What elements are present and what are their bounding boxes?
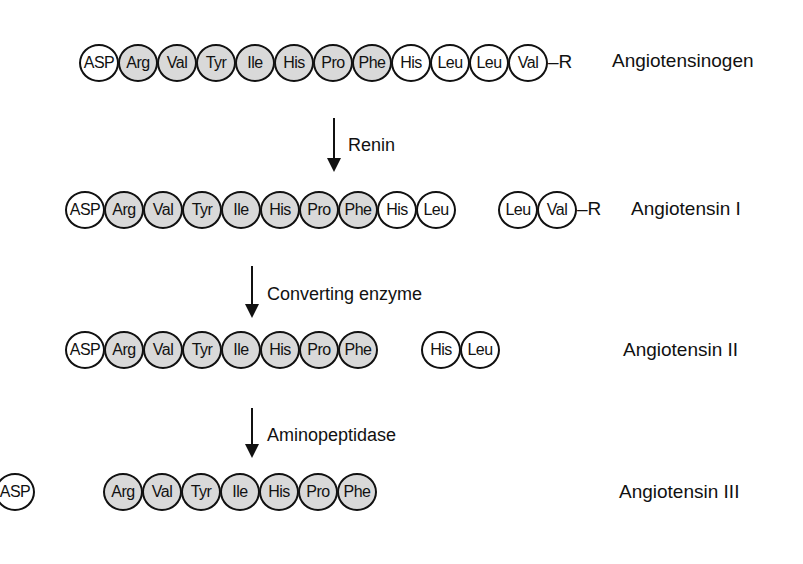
residue-tyr: Tyr xyxy=(182,331,222,369)
residue-tyr: Tyr xyxy=(182,191,222,229)
residue-ile: Ile xyxy=(220,473,260,511)
down-arrow-icon xyxy=(251,266,253,316)
residue-leu: Leu xyxy=(498,191,538,229)
r-group-tail: –R xyxy=(577,198,601,220)
enzyme-label-renin: Renin xyxy=(348,135,395,156)
residue-pro: Pro xyxy=(298,473,338,511)
row-label-angiotensin-3: Angiotensin III xyxy=(619,481,739,503)
residue-val: Val xyxy=(143,331,183,369)
residue-arg: Arg xyxy=(118,44,158,82)
residue-phe: Phe xyxy=(352,44,392,82)
residue-tyr: Tyr xyxy=(196,44,236,82)
residue-leu: Leu xyxy=(416,191,456,229)
residue-leu: Leu xyxy=(430,44,470,82)
residue-his: His xyxy=(274,44,314,82)
residue-arg: Arg xyxy=(104,191,144,229)
r-group-tail: –R xyxy=(548,51,572,73)
residue-phe: Phe xyxy=(338,331,378,369)
residue-val: Val xyxy=(537,191,577,229)
residue-asp: ASP xyxy=(0,473,35,511)
residue-arg: Arg xyxy=(104,331,144,369)
residue-leu: Leu xyxy=(460,331,500,369)
residue-ile: Ile xyxy=(221,331,261,369)
residue-ile: Ile xyxy=(235,44,275,82)
residue-his: His xyxy=(259,473,299,511)
residue-leu: Leu xyxy=(469,44,509,82)
residue-arg: Arg xyxy=(103,473,143,511)
residue-asp: ASP xyxy=(79,44,119,82)
residue-his: His xyxy=(421,331,461,369)
residue-val: Val xyxy=(157,44,197,82)
enzyme-label-aminopeptidase: Aminopeptidase xyxy=(267,425,396,446)
residue-ile: Ile xyxy=(221,191,261,229)
residue-his: His xyxy=(260,191,300,229)
enzyme-label-converting-enzyme: Converting enzyme xyxy=(267,284,422,305)
residue-pro: Pro xyxy=(313,44,353,82)
residue-his: His xyxy=(260,331,300,369)
row-label-angiotensin-1: Angiotensin I xyxy=(631,198,741,220)
residue-asp: ASP xyxy=(65,191,105,229)
down-arrow-icon xyxy=(251,408,253,456)
residue-asp: ASP xyxy=(65,331,105,369)
residue-val: Val xyxy=(508,44,548,82)
residue-his: His xyxy=(391,44,431,82)
residue-phe: Phe xyxy=(337,473,377,511)
residue-val: Val xyxy=(142,473,182,511)
residue-tyr: Tyr xyxy=(181,473,221,511)
down-arrow-icon xyxy=(333,118,335,170)
residue-val: Val xyxy=(143,191,183,229)
residue-his: His xyxy=(377,191,417,229)
residue-phe: Phe xyxy=(338,191,378,229)
residue-pro: Pro xyxy=(299,191,339,229)
row-label-angiotensin-2: Angiotensin II xyxy=(623,339,738,361)
residue-pro: Pro xyxy=(299,331,339,369)
row-label-angiotensinogen: Angiotensinogen xyxy=(612,50,754,72)
